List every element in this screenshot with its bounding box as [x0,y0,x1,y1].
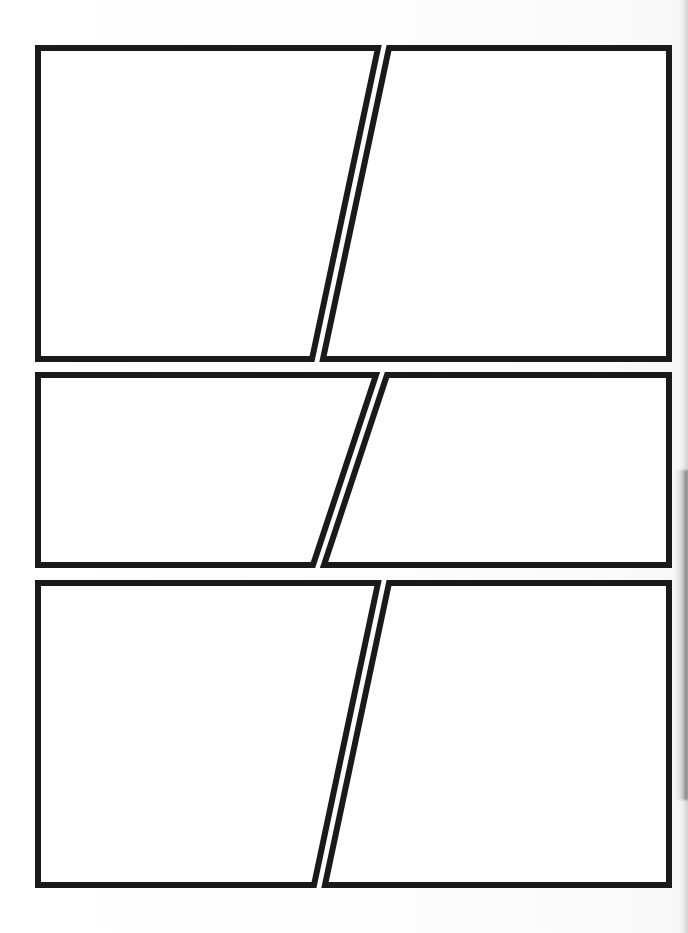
panel-3[interactable] [38,375,376,565]
panel-row-2 [38,375,669,565]
panel-4[interactable] [324,375,669,565]
comic-page [0,0,688,933]
panel-grid [0,0,688,933]
panel-row-1 [38,48,669,359]
panel-6[interactable] [325,583,669,885]
panel-5[interactable] [38,583,378,885]
panel-2[interactable] [323,48,669,359]
panel-row-3 [38,583,669,885]
panel-1[interactable] [38,48,378,359]
